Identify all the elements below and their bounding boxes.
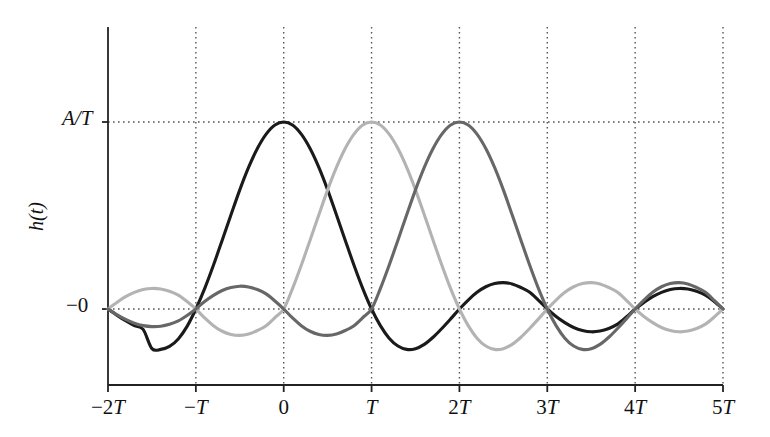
x-tick-label: 0	[244, 395, 324, 420]
x-tick-label: 5T	[683, 395, 763, 420]
figure-container: h(t) A/T −0 −2T−T0T2T3T4T5T	[0, 0, 770, 437]
x-tick-label: T	[332, 395, 412, 420]
y-tick-label-top: A/T	[62, 106, 92, 131]
x-tick-label: −2T	[68, 395, 148, 420]
x-tick-label: 2T	[419, 395, 499, 420]
sinc-pulse-chart	[0, 0, 770, 437]
x-tick-label: 3T	[507, 395, 587, 420]
gridlines	[108, 27, 723, 385]
x-tick-label: 4T	[595, 395, 675, 420]
data-curves	[108, 122, 723, 350]
y-axis-title: h(t)	[25, 189, 48, 245]
x-tick-label: −T	[156, 395, 236, 420]
axis-lines	[102, 27, 723, 392]
y-tick-label-zero: −0	[66, 293, 88, 318]
